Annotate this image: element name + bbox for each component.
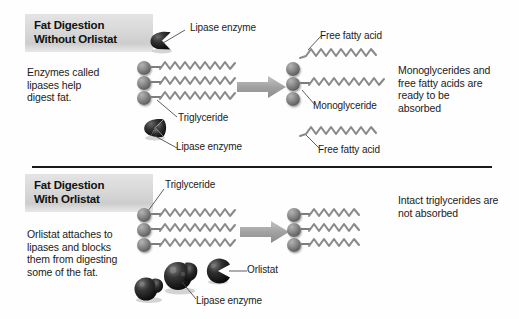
glycerol-sphere-b2	[137, 223, 151, 237]
label-free-fatty-acid-lower: Free fatty acid	[318, 144, 380, 156]
intact-chain-2	[309, 222, 361, 235]
top-panel-description: Enzymes called lipases help digest fat.	[27, 66, 147, 104]
label-lipase-enzyme-lower: Lipase enzyme	[176, 141, 242, 153]
fatty-acid-chain-b3	[160, 237, 238, 250]
monoglyceride-sphere-3	[286, 92, 300, 106]
fatty-acid-chain-b1	[160, 207, 238, 220]
label-orlistat: Orlistat	[247, 264, 278, 276]
bottom-panel-description: Orlistat attaches to lipases and blocks …	[27, 228, 157, 278]
glycerol-sphere-3	[137, 91, 151, 105]
intact-chain-1	[309, 207, 361, 220]
intact-triglyceride-sphere-2	[287, 223, 301, 237]
fatty-acid-chain-2	[160, 75, 238, 88]
intact-chain-3	[309, 237, 361, 250]
reaction-arrow-bottom	[240, 220, 290, 244]
bottom-panel-result-text: Intact triglycerides are not absorbed	[398, 194, 519, 219]
label-triglyceride-top: Triglyceride	[178, 112, 228, 124]
glycerol-sphere-b3	[137, 238, 151, 252]
reaction-arrow-top	[237, 75, 287, 99]
panel-divider	[32, 166, 492, 168]
glycerol-sphere-b1	[137, 208, 151, 222]
orlistat-leader-line	[229, 268, 249, 274]
top-panel-result-text: Monoglycerides and free fatty acids are …	[398, 64, 518, 114]
label-free-fatty-acid-upper: Free fatty acid	[320, 30, 382, 42]
label-lipase-enzyme-upper: Lipase enzyme	[190, 22, 256, 34]
label-triglyceride-bottom: Triglyceride	[165, 179, 215, 191]
monoglyceride-chain	[309, 76, 387, 89]
monoglyceride-sphere-1	[286, 62, 300, 76]
bottom-panel-heading: Fat Digestion With Orlistat	[25, 174, 153, 212]
lipase-upper-leader-line	[163, 28, 191, 46]
glycerol-sphere-1	[137, 61, 151, 75]
intact-triglyceride-sphere-3	[287, 238, 301, 252]
top-panel-heading: Fat Digestion Without Orlistat	[25, 14, 153, 52]
label-lipase-enzyme-bottom: Lipase enzyme	[196, 295, 262, 307]
fatty-acid-chain-1	[160, 60, 238, 73]
fatty-acid-chain-b2	[160, 222, 238, 235]
monoglyceride-sphere-2	[286, 77, 300, 91]
label-monoglyceride: Monoglyceride	[313, 100, 377, 112]
glycerol-sphere-2	[137, 76, 151, 90]
figure-canvas: Fat Digestion Without Orlistat Enzymes c…	[0, 0, 519, 319]
intact-triglyceride-sphere-1	[287, 208, 301, 222]
